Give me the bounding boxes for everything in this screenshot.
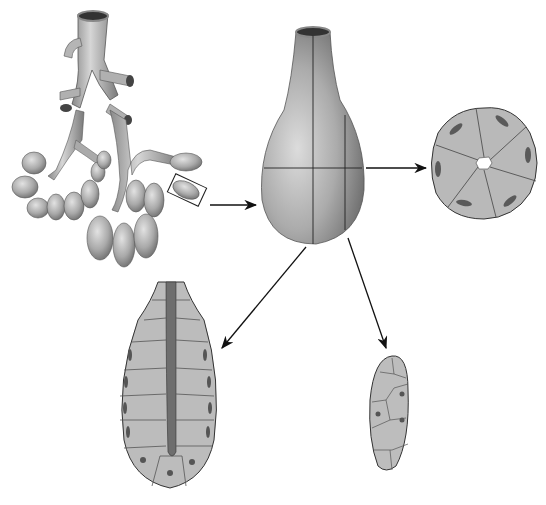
- cross-section: [431, 108, 537, 219]
- tangential-section: [370, 356, 409, 470]
- duct-opening: [78, 11, 108, 21]
- arrow-to-tangential-section: [348, 238, 386, 348]
- longitudinal-section: [120, 282, 216, 488]
- single-acinus: [261, 27, 364, 244]
- arrow-to-longitudinal-section: [222, 247, 306, 348]
- acini-cluster: [12, 151, 202, 267]
- gland-diagram: [0, 0, 546, 505]
- duct-lumen: [166, 282, 176, 456]
- acinus-opening: [296, 27, 330, 37]
- branched-gland: [12, 11, 207, 267]
